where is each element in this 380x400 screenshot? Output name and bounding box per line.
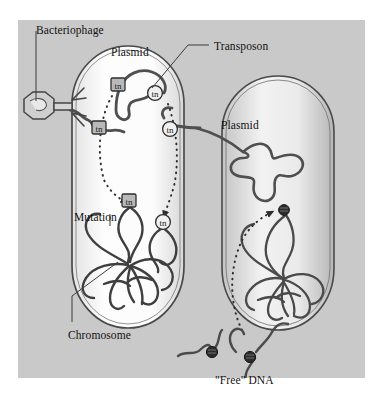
tn-free-dna-dark-right [244,351,255,362]
label-bacteriophage: Bacteriophage [36,25,104,37]
label-mutation: Mutation [74,212,117,224]
tn-plasmid-bridge-circle: tn [163,122,178,137]
svg-text:tn: tn [95,124,103,134]
tn-plasmid-left-circle: tn [148,86,163,101]
svg-text:tn: tn [114,81,122,91]
label-transposon: Transposon [214,41,268,53]
svg-text:tn: tn [166,125,174,135]
tn-chromosome-square: tn [122,194,136,207]
right-bacterium [222,76,334,330]
figure-diagram: tn tn tn tn tn tn [0,0,380,400]
tn-phage-dna-square: tn [92,121,106,134]
tn-right-chromosome-dark [279,205,290,216]
free-dna-fragments [178,323,288,380]
diagram-artwork: tn tn tn tn tn tn [0,0,380,400]
svg-text:tn: tn [159,218,167,228]
label-free-dna: "Free" DNA [215,375,274,387]
label-plasmid-left: Plasmid [111,47,149,59]
svg-text:tn: tn [151,89,159,99]
tn-plasmid-left-square: tn [111,78,125,91]
svg-text:tn: tn [125,197,133,207]
tn-chromosome-circle: tn [156,215,171,230]
label-chromosome: Chromosome [68,330,131,342]
label-plasmid-right: Plasmid [221,120,259,132]
tn-free-dna-dark-left [206,346,217,357]
